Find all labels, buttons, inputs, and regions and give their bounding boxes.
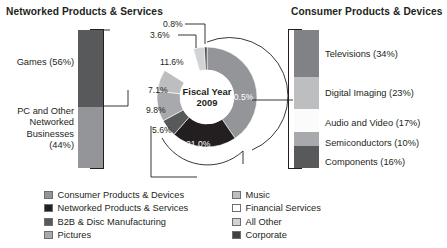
legend-item-label: Music — [246, 190, 270, 200]
legend-item[interactable]: Consumer Products & Devices — [44, 188, 188, 201]
legend-swatch-icon — [232, 231, 241, 239]
slice-label-b2b-disc: 5.6% — [152, 125, 172, 135]
left-breakout-bar — [78, 30, 103, 168]
legend-item[interactable]: B2B & Disc Manufacturing — [44, 215, 188, 228]
legend-column-right: MusicFinancial ServicesAll OtherCorporat… — [232, 188, 321, 242]
legend-swatch-icon — [44, 191, 53, 199]
right-panel-heading: Consumer Products & Devices — [291, 6, 443, 17]
legend-item-label: All Other — [246, 217, 282, 227]
slice-label-corporate: 0.8% — [163, 19, 183, 29]
bar-segment — [78, 30, 103, 107]
legend-item-label: Financial Services — [246, 203, 321, 213]
legend-item[interactable]: Networked Products & Services — [44, 202, 188, 215]
legend-item[interactable]: All Other — [232, 215, 321, 228]
right-bar-label-televisions: Televisions (34%) — [325, 49, 445, 60]
slice-label-pictures: 9.8% — [146, 105, 166, 115]
donut-hole — [180, 70, 234, 124]
legend-item[interactable]: Corporate — [232, 229, 321, 242]
legend-item[interactable]: Financial Services — [232, 202, 321, 215]
right-bar-label-digital-imaging: Digital Imaging (23%) — [325, 88, 445, 99]
bar-segment — [294, 30, 319, 77]
legend-item-label: Pictures — [58, 230, 92, 240]
chart-canvas: Networked Products & Services Consumer P… — [0, 0, 447, 248]
slice-label-all-other: 3.6% — [150, 30, 170, 40]
left-panel-heading: Networked Products & Services — [6, 6, 163, 17]
legend-item-label: Corporate — [246, 230, 287, 240]
slice-label-music: 7.1% — [148, 85, 168, 95]
leader-left-bottom — [104, 90, 128, 106]
legend-column-left: Consumer Products & DevicesNetworked Pro… — [44, 188, 188, 242]
legend-item[interactable]: Music — [232, 188, 321, 201]
left-bar-label-pc-other: PC and Other Networked Businesses (44%) — [0, 106, 74, 152]
legend-item-label: Networked Products & Services — [58, 203, 189, 213]
bar-segment — [294, 109, 319, 132]
legend-item[interactable]: Pictures — [44, 229, 188, 242]
legend-swatch-icon — [44, 204, 53, 212]
right-bar-label-semiconductors: Semiconductors (10%) — [325, 138, 447, 149]
legend-swatch-icon — [44, 218, 53, 226]
bar-segment — [294, 77, 319, 109]
legend-swatch-icon — [44, 231, 53, 239]
left-bar-label-games: Games (56%) — [0, 57, 74, 68]
bar-segment — [78, 107, 103, 168]
legend-swatch-icon — [232, 218, 241, 226]
right-bar-label-audio-video: Audio and Video (17%) — [325, 118, 447, 129]
bar-segment — [294, 132, 319, 146]
right-breakout-bar — [294, 30, 319, 168]
legend-swatch-icon — [232, 191, 241, 199]
bar-segment — [294, 146, 319, 168]
legend-item-label: Consumer Products & Devices — [58, 190, 185, 200]
slice-label-consumer-products: 40.5% — [229, 92, 253, 102]
slice-label-networked-products: 21.0% — [186, 139, 210, 149]
legend-swatch-icon — [232, 204, 241, 212]
right-bar-label-components: Components (16%) — [325, 157, 447, 168]
legend-item-label: B2B & Disc Manufacturing — [58, 217, 167, 227]
slice-label-financial-services: 11.6% — [160, 57, 184, 67]
